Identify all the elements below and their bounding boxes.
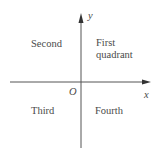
origin-label: O <box>69 86 77 97</box>
third-quadrant-label: Third <box>31 105 54 116</box>
x-axis-label: x <box>144 89 149 100</box>
fourth-quadrant-label: Fourth <box>95 105 123 116</box>
first-quadrant-label-line1: First <box>96 37 115 48</box>
axes-graphic <box>0 0 159 160</box>
x-axis-arrow-icon <box>142 80 151 85</box>
coordinate-plane-diagram: y x O Second First quadrant Third Fourth <box>0 0 159 160</box>
y-axis-arrow-icon <box>79 13 84 23</box>
first-quadrant-label-line2: quadrant <box>96 49 133 60</box>
y-axis-label: y <box>88 10 93 21</box>
second-quadrant-label: Second <box>31 38 62 49</box>
